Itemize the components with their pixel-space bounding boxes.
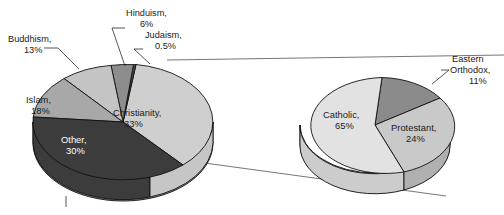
label-judaism-line1: Judaism, [145, 30, 182, 40]
label-eastern-orthodox-line3: 11% [469, 76, 487, 86]
label-eastern-orthodox-line1: Eastern [452, 54, 484, 64]
label-christianity-line2: 33% [124, 118, 143, 129]
label-catholic-line1: Catholic, [323, 109, 359, 120]
label-islam-line2: 18% [31, 105, 50, 116]
label-protestant-line1: Protestant, [391, 122, 436, 133]
label-christianity-line1: Christianity, [113, 107, 161, 118]
label-buddhism-line2: 13% [24, 45, 42, 55]
dual-pie-chart-figure: Buddhism, 13% Hinduism, 6% Judaism, 0.5%… [0, 0, 504, 215]
label-protestant-line2: 24% [406, 133, 425, 144]
label-other-line1: Other, [61, 134, 87, 145]
label-judaism-line2: 0.5% [155, 41, 176, 51]
label-catholic-line2: 65% [335, 120, 354, 131]
label-buddhism-line1: Buddhism, [8, 34, 51, 44]
left-pie-slices [33, 64, 213, 179]
label-islam-line1: Islam, [26, 94, 51, 105]
label-eastern-orthodox-line2: Orthodox, [450, 65, 490, 75]
label-hinduism-line2: 6% [140, 19, 153, 29]
label-other-line2: 30% [66, 145, 85, 156]
label-hinduism-line1: Hinduism, [126, 8, 167, 18]
